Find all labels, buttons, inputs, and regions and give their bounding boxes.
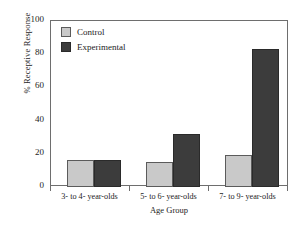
bar-control-group2 bbox=[146, 162, 173, 187]
bar-control-group3 bbox=[225, 155, 252, 187]
y-tick-label: 0 bbox=[0, 181, 44, 190]
bar-experimental-group1 bbox=[94, 160, 121, 187]
legend-swatch-icon bbox=[61, 42, 71, 52]
y-tick-label: 60 bbox=[0, 81, 44, 90]
y-tick-label: 20 bbox=[0, 148, 44, 157]
bar-chart-figure: % Receptive Response 100 80 60 40 20 0 bbox=[0, 0, 308, 225]
bar-experimental-group2 bbox=[173, 134, 200, 187]
legend: Control Experimental bbox=[61, 25, 125, 55]
legend-label: Control bbox=[77, 27, 105, 37]
y-tick-label: 100 bbox=[0, 15, 44, 24]
x-group-label-3: 7- to 9- year-olds bbox=[208, 192, 287, 202]
x-group-label-1: 3- to 4- year-olds bbox=[50, 192, 129, 202]
bar-experimental-group3 bbox=[252, 49, 279, 187]
x-tick-mark bbox=[208, 186, 209, 191]
y-tick-label: 40 bbox=[0, 115, 44, 124]
legend-entry-experimental: Experimental bbox=[61, 40, 125, 53]
x-tick-mark bbox=[50, 186, 51, 191]
x-group-label-2: 5- to 6- year-olds bbox=[129, 192, 208, 202]
legend-swatch-icon bbox=[61, 27, 71, 37]
legend-label: Experimental bbox=[77, 42, 125, 52]
y-tick-label: 80 bbox=[0, 48, 44, 57]
bar-control-group1 bbox=[67, 160, 94, 187]
x-tick-mark bbox=[129, 186, 130, 191]
plot-area: Control Experimental bbox=[50, 20, 288, 186]
x-tick-mark bbox=[287, 186, 288, 191]
x-axis-title: Age Group bbox=[50, 205, 288, 215]
legend-entry-control: Control bbox=[61, 25, 125, 38]
